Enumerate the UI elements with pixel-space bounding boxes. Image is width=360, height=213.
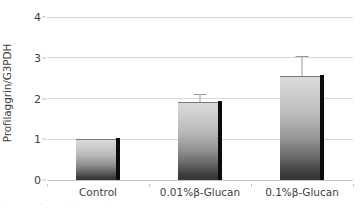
bar-shadow-edge [116, 138, 120, 180]
y-tick-mark-1 [42, 139, 46, 140]
x-tick-label: 0.01%β-Glucan [160, 187, 240, 198]
y-axis-title: Profilaggrin/G3PDH [0, 0, 14, 186]
error-bar-cap-top [296, 56, 309, 57]
x-tick-mark [251, 184, 252, 187]
caption-sliver-text: partially cropped caption text [4, 204, 155, 205]
y-tick-label-1: 1 [34, 134, 41, 145]
y-tick-label-2: 2 [34, 93, 41, 104]
bar-group [76, 17, 120, 180]
y-tick-mark-3 [42, 57, 46, 58]
y-tick-label-0: 0 [34, 175, 41, 186]
bar-chart: Profilaggrin/G3PDH 43210 Control0.01%β-G… [0, 0, 360, 213]
bar [76, 139, 120, 180]
bar-group [280, 17, 324, 180]
bar [178, 102, 222, 180]
x-tick-label: 0.1%β-Glucan [265, 187, 339, 198]
y-axis-title-text: Profilaggrin/G3PDH [1, 44, 13, 143]
y-tick-label-3: 3 [34, 52, 41, 63]
x-tick-mark [47, 184, 48, 187]
bar-group [178, 17, 222, 180]
x-tick-mark [149, 184, 150, 187]
x-tick-label: Control [79, 187, 117, 198]
y-tick-mark-0 [42, 180, 46, 181]
x-axis-labels: Control0.01%β-Glucan0.1%β-Glucan [47, 184, 353, 202]
y-tick-mark-2 [42, 98, 46, 99]
x-tick-mark [353, 184, 354, 187]
y-tick-label-4: 4 [34, 12, 41, 23]
error-bar-stem [200, 94, 201, 103]
bar-shadow-edge [218, 101, 222, 180]
error-bar-stem [302, 56, 303, 76]
y-tick-mark-4 [42, 17, 46, 18]
caption-sliver: partially cropped caption text [0, 204, 360, 213]
error-bar-cap-top [194, 94, 207, 95]
bar [280, 76, 324, 180]
bar-shadow-edge [320, 75, 324, 180]
plot-area: 43210 [47, 17, 353, 180]
